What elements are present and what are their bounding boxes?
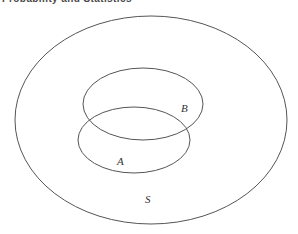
set-a-label: A	[116, 155, 124, 167]
venn-diagram-page: Probability and Statistics B A S	[0, 0, 298, 234]
universe-set-label: S	[145, 193, 151, 205]
venn-diagram-canvas: B A S	[0, 0, 298, 234]
set-b-label: B	[181, 102, 188, 114]
universe-set-ellipse	[15, 16, 287, 224]
